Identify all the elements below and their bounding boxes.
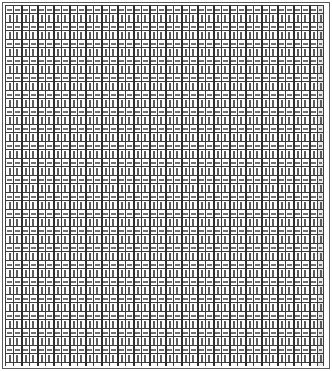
grid-cell[interactable]	[54, 14, 62, 23]
grid-cell[interactable]	[214, 193, 222, 201]
grid-cell[interactable]	[6, 269, 14, 278]
grid-cell[interactable]	[126, 354, 134, 363]
grid-cell[interactable]	[198, 201, 206, 210]
grid-cell[interactable]	[62, 40, 70, 48]
grid-cell[interactable]	[318, 363, 324, 367]
grid-cell[interactable]	[150, 269, 158, 278]
grid-cell[interactable]	[182, 99, 190, 108]
grid-cell[interactable]	[230, 82, 238, 91]
grid-cell[interactable]	[14, 346, 22, 354]
grid-cell[interactable]	[246, 40, 254, 48]
grid-cell[interactable]	[70, 269, 78, 278]
grid-cell[interactable]	[86, 31, 94, 40]
grid-cell[interactable]	[54, 354, 62, 363]
grid-cell[interactable]	[126, 346, 134, 354]
grid-cell[interactable]	[238, 48, 246, 57]
grid-cell[interactable]	[6, 99, 14, 108]
grid-cell[interactable]	[174, 278, 182, 286]
grid-cell[interactable]	[278, 65, 286, 74]
grid-cell[interactable]	[14, 176, 22, 184]
grid-cell[interactable]	[302, 82, 310, 91]
grid-cell[interactable]	[222, 99, 230, 108]
grid-cell[interactable]	[262, 227, 270, 235]
grid-cell[interactable]	[150, 108, 158, 116]
grid-cell[interactable]	[118, 337, 126, 346]
grid-cell[interactable]	[6, 40, 14, 48]
grid-cell[interactable]	[62, 150, 70, 159]
grid-cell[interactable]	[222, 125, 230, 133]
grid-cell[interactable]	[14, 184, 22, 193]
grid-cell[interactable]	[6, 142, 14, 150]
grid-cell[interactable]	[174, 193, 182, 201]
grid-cell[interactable]	[6, 108, 14, 116]
grid-cell[interactable]	[14, 48, 22, 57]
grid-cell[interactable]	[270, 6, 278, 14]
grid-cell[interactable]	[182, 48, 190, 57]
grid-cell[interactable]	[14, 6, 22, 14]
grid-cell[interactable]	[230, 57, 238, 65]
grid-cell[interactable]	[246, 346, 254, 354]
grid-cell[interactable]	[262, 176, 270, 184]
grid-cell[interactable]	[102, 74, 110, 82]
grid-cell[interactable]	[222, 354, 230, 363]
grid-cell[interactable]	[238, 227, 246, 235]
grid-cell[interactable]	[46, 346, 54, 354]
grid-cell[interactable]	[142, 23, 150, 31]
grid-cell[interactable]	[246, 312, 254, 320]
grid-cell[interactable]	[70, 235, 78, 244]
grid-cell[interactable]	[310, 23, 318, 31]
grid-cell[interactable]	[190, 23, 198, 31]
grid-cell[interactable]	[222, 244, 230, 252]
grid-cell[interactable]	[278, 295, 286, 303]
grid-cell[interactable]	[206, 329, 214, 337]
grid-cell[interactable]	[6, 65, 14, 74]
grid-cell[interactable]	[38, 201, 46, 210]
grid-cell[interactable]	[94, 261, 102, 269]
grid-cell[interactable]	[262, 312, 270, 320]
grid-cell[interactable]	[134, 167, 142, 176]
grid-cell[interactable]	[70, 31, 78, 40]
grid-cell[interactable]	[238, 354, 246, 363]
grid-cell[interactable]	[30, 125, 38, 133]
grid-cell[interactable]	[158, 31, 166, 40]
grid-cell[interactable]	[270, 235, 278, 244]
grid-cell[interactable]	[278, 31, 286, 40]
grid-cell[interactable]	[118, 210, 126, 218]
grid-cell[interactable]	[150, 193, 158, 201]
grid-cell[interactable]	[286, 184, 294, 193]
grid-cell[interactable]	[206, 218, 214, 227]
grid-cell[interactable]	[158, 337, 166, 346]
grid-cell[interactable]	[166, 363, 174, 367]
grid-cell[interactable]	[6, 193, 14, 201]
grid-cell[interactable]	[6, 227, 14, 235]
grid-cell[interactable]	[150, 346, 158, 354]
grid-cell[interactable]	[286, 14, 294, 23]
grid-cell[interactable]	[6, 14, 14, 23]
grid-cell[interactable]	[6, 31, 14, 40]
grid-cell[interactable]	[110, 74, 118, 82]
grid-cell[interactable]	[102, 31, 110, 40]
grid-cell[interactable]	[78, 210, 86, 218]
grid-cell[interactable]	[126, 176, 134, 184]
grid-cell[interactable]	[206, 48, 214, 57]
grid-cell[interactable]	[62, 201, 70, 210]
grid-cell[interactable]	[54, 133, 62, 142]
grid-cell[interactable]	[262, 193, 270, 201]
grid-cell[interactable]	[38, 142, 46, 150]
grid-cell[interactable]	[54, 286, 62, 295]
grid-cell[interactable]	[294, 82, 302, 91]
grid-cell[interactable]	[6, 244, 14, 252]
grid-cell[interactable]	[286, 363, 294, 367]
grid-cell[interactable]	[30, 116, 38, 125]
grid-cell[interactable]	[38, 252, 46, 261]
grid-cell[interactable]	[190, 286, 198, 295]
grid-cell[interactable]	[318, 31, 324, 40]
grid-cell[interactable]	[142, 269, 150, 278]
grid-cell[interactable]	[198, 48, 206, 57]
grid-cell[interactable]	[102, 337, 110, 346]
grid-cell[interactable]	[238, 57, 246, 65]
grid-cell[interactable]	[318, 320, 324, 329]
grid-cell[interactable]	[14, 363, 22, 367]
grid-cell[interactable]	[22, 31, 30, 40]
grid-cell[interactable]	[230, 235, 238, 244]
